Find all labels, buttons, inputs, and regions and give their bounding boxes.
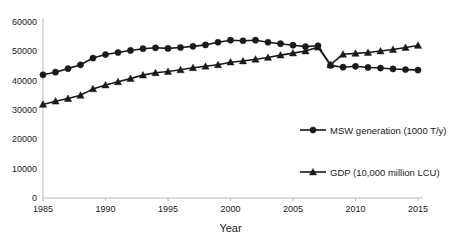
x-axis-title: Year: [219, 222, 242, 234]
data-point-msw: [377, 65, 383, 71]
data-point-msw: [65, 66, 71, 72]
data-point-msw: [352, 63, 358, 69]
x-tick-label: 1995: [158, 204, 178, 214]
chart-container: 0100002000030000400005000060000198519901…: [0, 0, 460, 247]
y-tick-label: 30000: [12, 105, 37, 115]
data-point-msw: [127, 47, 133, 53]
x-tick-label: 2000: [220, 204, 240, 214]
y-tick-label: 10000: [12, 164, 37, 174]
legend-label-1: GDP (10,000 million LCU): [330, 167, 440, 178]
data-point-msw: [277, 41, 283, 47]
data-point-msw: [90, 55, 96, 61]
data-point-gdp: [77, 92, 84, 98]
data-point-msw: [202, 42, 208, 48]
series-line-gdp: [43, 45, 418, 104]
data-point-msw: [265, 39, 271, 45]
x-tick-label: 1990: [95, 204, 115, 214]
data-point-msw: [365, 64, 371, 70]
data-point-msw: [77, 62, 83, 68]
data-point-msw: [190, 43, 196, 49]
data-point-msw: [102, 51, 108, 57]
data-point-msw: [215, 39, 221, 45]
data-point-msw: [340, 64, 346, 70]
legend-label-0: MSW generation (1000 T/y): [330, 125, 447, 136]
x-tick-label: 1985: [33, 204, 53, 214]
data-point-msw: [152, 45, 158, 51]
x-tick-label: 2015: [408, 204, 428, 214]
data-point-msw: [52, 69, 58, 75]
y-tick-label: 60000: [12, 17, 37, 27]
line-chart: 0100002000030000400005000060000198519901…: [0, 0, 460, 247]
y-tick-label: 0: [32, 193, 37, 203]
y-tick-label: 40000: [12, 76, 37, 86]
data-point-msw: [402, 66, 408, 72]
series-line-msw: [43, 40, 418, 75]
x-tick-label: 2005: [283, 204, 303, 214]
data-point-msw: [390, 66, 396, 72]
data-point-msw: [415, 67, 421, 73]
data-point-msw: [165, 45, 171, 51]
data-point-msw: [227, 37, 233, 43]
x-tick-label: 2010: [345, 204, 365, 214]
data-point-msw: [177, 44, 183, 50]
data-point-msw: [290, 42, 296, 48]
data-point-msw: [40, 72, 46, 78]
data-point-msw: [140, 46, 146, 52]
y-tick-label: 50000: [12, 46, 37, 56]
legend-marker-circle-icon: [310, 127, 316, 133]
data-point-msw: [252, 37, 258, 43]
data-point-msw: [240, 38, 246, 44]
y-tick-label: 20000: [12, 134, 37, 144]
data-point-msw: [115, 49, 121, 55]
